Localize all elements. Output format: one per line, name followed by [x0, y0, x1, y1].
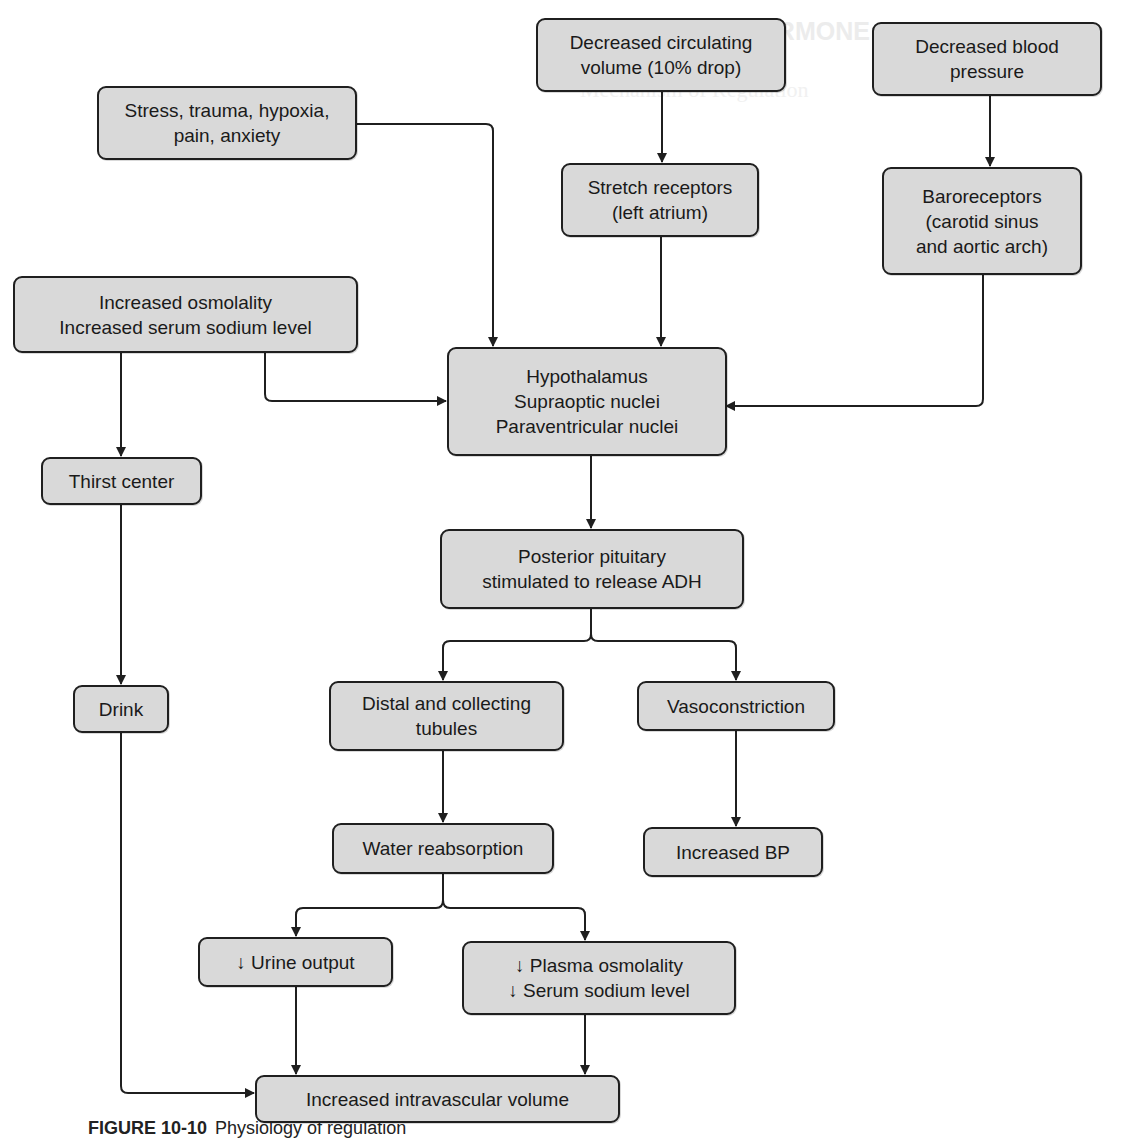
- figure-caption: FIGURE 10-10Physiology of regulation: [88, 1118, 406, 1139]
- node-stretch-receptors: Stretch receptors (left atrium): [561, 163, 759, 237]
- node-text: ↓ Urine output: [236, 950, 354, 975]
- node-posterior-pituitary: Posterior pituitary stimulated to releas…: [440, 529, 744, 609]
- node-decreased-urine-output: ↓ Urine output: [198, 937, 393, 987]
- arrow-osmolality-to-hypothalamus: [265, 352, 446, 401]
- node-text: Distal and collecting: [362, 691, 531, 716]
- node-drink: Drink: [73, 685, 169, 733]
- node-thirst-center: Thirst center: [41, 457, 202, 505]
- figure-caption-text: Physiology of regulation: [215, 1118, 406, 1138]
- node-increased-bp: Increased BP: [643, 827, 823, 877]
- node-vasoconstriction: Vasoconstriction: [637, 681, 835, 731]
- node-stress-trauma: Stress, trauma, hypoxia, pain, anxiety: [97, 86, 357, 160]
- node-increased-intravascular-volume: Increased intravascular volume: [255, 1075, 620, 1123]
- node-text: Baroreceptors: [922, 184, 1041, 209]
- node-decreased-circulating-volume: Decreased circulating volume (10% drop): [536, 18, 786, 92]
- arrow-drink-to-volume: [121, 732, 254, 1093]
- node-decreased-blood-pressure: Decreased blood pressure: [872, 22, 1102, 96]
- node-text: (carotid sinus: [926, 209, 1039, 234]
- arrow-pituitary-to-tubules: [443, 608, 591, 680]
- node-text: and aortic arch): [916, 234, 1048, 259]
- node-text: Stress, trauma, hypoxia,: [125, 98, 330, 123]
- node-distal-collecting-tubules: Distal and collecting tubules: [329, 681, 564, 751]
- node-text: Supraoptic nuclei: [514, 389, 660, 414]
- node-text: tubules: [416, 716, 477, 741]
- node-text: pressure: [950, 59, 1024, 84]
- arrow-pituitary-to-vasoconstriction: [591, 634, 736, 680]
- node-text: Paraventricular nuclei: [496, 414, 679, 439]
- node-text: Water reabsorption: [363, 836, 524, 861]
- node-text: Increased intravascular volume: [306, 1087, 569, 1112]
- node-text: stimulated to release ADH: [482, 569, 702, 594]
- node-baroreceptors: Baroreceptors (carotid sinus and aortic …: [882, 167, 1082, 275]
- node-text: volume (10% drop): [581, 55, 742, 80]
- arrow-water-to-urine: [296, 873, 443, 936]
- node-text: Increased BP: [676, 840, 790, 865]
- node-text: Stretch receptors: [588, 175, 733, 200]
- arrow-baroreceptors-to-hypothalamus: [726, 274, 983, 406]
- node-text: Increased serum sodium level: [59, 315, 311, 340]
- node-text: Decreased blood: [915, 34, 1059, 59]
- node-text: Vasoconstriction: [667, 694, 805, 719]
- arrow-water-to-plasma: [443, 900, 585, 940]
- node-text: ↓ Serum sodium level: [508, 978, 690, 1003]
- node-text: pain, anxiety: [174, 123, 281, 148]
- node-decreased-plasma-osmolality: ↓ Plasma osmolality ↓ Serum sodium level: [462, 941, 736, 1015]
- node-hypothalamus: Hypothalamus Supraoptic nuclei Paraventr…: [447, 347, 727, 456]
- node-increased-osmolality: Increased osmolality Increased serum sod…: [13, 276, 358, 353]
- node-text: Thirst center: [69, 469, 175, 494]
- node-water-reabsorption: Water reabsorption: [332, 823, 554, 874]
- node-text: Increased osmolality: [99, 290, 272, 315]
- node-text: ↓ Plasma osmolality: [515, 953, 683, 978]
- node-text: Drink: [99, 697, 143, 722]
- node-text: Hypothalamus: [526, 364, 647, 389]
- arrow-stress-to-hypothalamus: [356, 124, 493, 346]
- figure-label: FIGURE 10-10: [88, 1118, 207, 1138]
- node-text: Posterior pituitary: [518, 544, 666, 569]
- node-text: Decreased circulating: [570, 30, 753, 55]
- node-text: (left atrium): [612, 200, 708, 225]
